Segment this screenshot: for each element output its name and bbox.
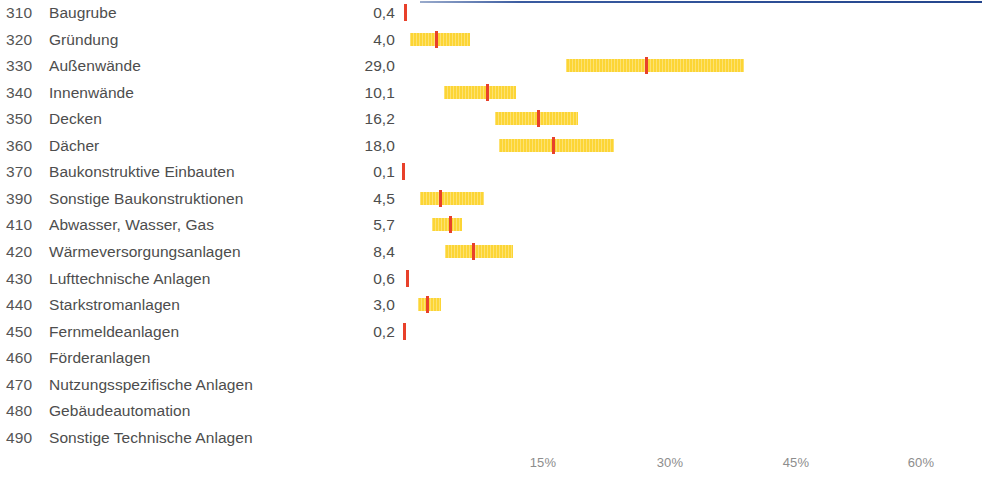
row-label: Gebäudeautomation (49, 400, 190, 422)
table-row: 410Abwasser, Wasser, Gas5,7 (0, 214, 982, 241)
row-label: Nutzungsspezifische Anlagen (49, 374, 253, 396)
row-value: 0,2 (300, 321, 395, 343)
row-value: 29,0 (300, 55, 395, 77)
row-label: Fernmeldeanlagen (49, 321, 179, 343)
x-axis-tick-label: 30% (640, 455, 700, 471)
row-code: 350 (6, 108, 44, 130)
row-code: 420 (6, 241, 44, 263)
row-code: 430 (6, 268, 44, 290)
table-row: 470Nutzungsspezifische Anlagen (0, 374, 982, 401)
row-value: 5,7 (300, 214, 395, 236)
row-code: 320 (6, 29, 44, 51)
row-code: 340 (6, 82, 44, 104)
row-value: 4,5 (300, 188, 395, 210)
table-row: 450Fernmeldeanlagen0,2 (0, 321, 982, 348)
row-label: Decken (49, 108, 102, 130)
table-row: 480Gebäudeautomation (0, 400, 982, 427)
row-label: Wärmeversorgungsanlagen (49, 241, 241, 263)
row-value: 4,0 (300, 29, 395, 51)
row-code: 310 (6, 2, 44, 24)
row-label: Förderanlagen (49, 347, 150, 369)
row-code: 330 (6, 55, 44, 77)
table-row: 460Förderanlagen (0, 347, 982, 374)
row-value: 0,1 (300, 161, 395, 183)
table-row: 330Außenwände29,0 (0, 55, 982, 82)
row-code: 480 (6, 400, 44, 422)
table-row: 340Innenwände10,1 (0, 82, 982, 109)
table-row: 430Lufttechnische Anlagen0,6 (0, 268, 982, 295)
row-value: 18,0 (300, 135, 395, 157)
row-code: 470 (6, 374, 44, 396)
x-axis-tick-label: 15% (513, 455, 573, 471)
table-row: 350Decken16,2 (0, 108, 982, 135)
table-row: 310Baugrube0,4 (0, 2, 982, 29)
x-axis-tick-label: 45% (766, 455, 826, 471)
row-code: 410 (6, 214, 44, 236)
row-value: 0,4 (300, 2, 395, 24)
row-value: 10,1 (300, 82, 395, 104)
row-label: Außenwände (49, 55, 141, 77)
x-axis-tick-label: 60% (891, 455, 951, 471)
row-label: Dächer (49, 135, 99, 157)
row-code: 490 (6, 427, 44, 449)
table-row: 320Gründung4,0 (0, 29, 982, 56)
row-value: 16,2 (300, 108, 395, 130)
row-label: Baugrube (49, 2, 117, 24)
row-label: Lufttechnische Anlagen (49, 268, 210, 290)
row-label: Starkstromanlagen (49, 294, 180, 316)
row-code: 370 (6, 161, 44, 183)
row-code: 440 (6, 294, 44, 316)
row-code: 450 (6, 321, 44, 343)
row-value: 0,6 (300, 268, 395, 290)
row-label: Sonstige Baukonstruktionen (49, 188, 243, 210)
row-value: 8,4 (300, 241, 395, 263)
row-label: Innenwände (49, 82, 134, 104)
row-code: 460 (6, 347, 44, 369)
row-code: 390 (6, 188, 44, 210)
table-row: 360Dächer18,0 (0, 135, 982, 162)
table-row: 440Starkstromanlagen3,0 (0, 294, 982, 321)
row-label: Sonstige Technische Anlagen (49, 427, 253, 449)
kostengruppen-range-chart: 310Baugrube0,4320Gründung4,0330Außenwänd… (0, 0, 982, 481)
table-row: 490Sonstige Technische Anlagen (0, 427, 982, 454)
row-code: 360 (6, 135, 44, 157)
table-row: 420Wärmeversorgungsanlagen8,4 (0, 241, 982, 268)
row-value: 3,0 (300, 294, 395, 316)
table-row: 390Sonstige Baukonstruktionen4,5 (0, 188, 982, 215)
table-row: 370Baukonstruktive Einbauten0,1 (0, 161, 982, 188)
row-label: Abwasser, Wasser, Gas (49, 214, 214, 236)
row-label: Baukonstruktive Einbauten (49, 161, 235, 183)
row-label: Gründung (49, 29, 118, 51)
